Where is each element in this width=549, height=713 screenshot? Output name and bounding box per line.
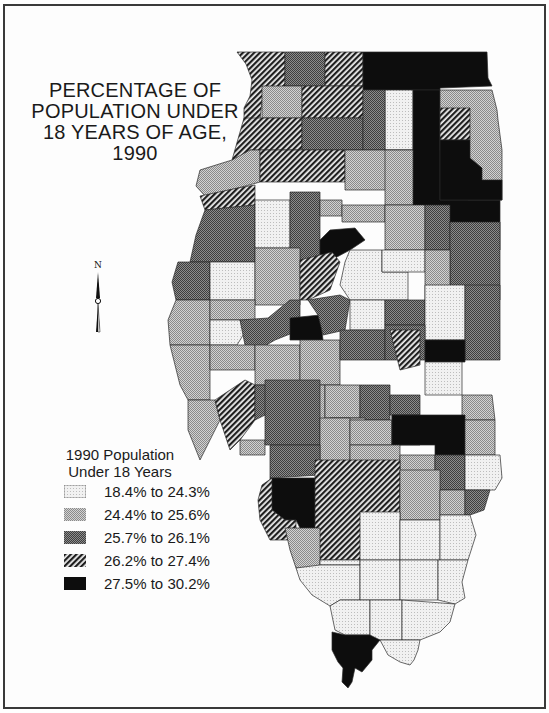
legend-title-line: Under 18 Years — [30, 463, 210, 480]
county-champaign-north — [385, 300, 425, 325]
map-title: PERCENTAGE OF POPULATION UNDER 18 YEARS … — [30, 80, 240, 164]
county-mercer-west — [190, 205, 255, 262]
county-pope-hardin — [402, 600, 455, 640]
county-shelby-fayette — [350, 420, 392, 445]
county-randolph — [285, 528, 320, 570]
county-coles — [360, 385, 390, 420]
county-jefferson-hamilton — [360, 512, 400, 560]
swatch-dark-dot — [64, 531, 86, 544]
county-moultrie — [325, 385, 360, 418]
county-jasper-crawford — [392, 415, 465, 455]
county-gallatin-south — [438, 560, 468, 604]
county-crawford — [465, 420, 495, 455]
county-warren — [210, 262, 255, 300]
county-menard-sangamon — [255, 345, 300, 385]
legend-item-4: 26.2% to 27.4% — [33, 549, 270, 572]
county-lee — [302, 118, 363, 150]
county-piatt — [340, 330, 385, 360]
legend-item-2: 24.4% to 25.6% — [33, 503, 270, 526]
legend-label: 27.5% to 30.2% — [104, 575, 210, 592]
county-clark — [390, 395, 420, 415]
county-putnam — [342, 205, 385, 222]
county-williamson — [360, 560, 400, 600]
legend-title-line: 1990 Population — [30, 446, 210, 463]
county-boone-mchenry-lake — [363, 52, 492, 90]
county-alexander-pulaski — [332, 632, 380, 688]
county-mcdonough — [210, 300, 255, 320]
county-adams — [170, 345, 210, 400]
legend-item-5: 27.5% to 30.2% — [33, 572, 270, 595]
county-perry-franklin — [320, 560, 360, 565]
legend-title: 1990 Population Under 18 Years — [30, 446, 210, 480]
county-dekalb — [385, 90, 413, 150]
county-gallatin — [440, 515, 476, 560]
swatch-light-dot — [64, 485, 86, 498]
county-henderson — [172, 262, 210, 300]
county-kankakee — [425, 205, 450, 250]
north-arrow-icon: N — [88, 258, 108, 338]
county-lee-east — [363, 90, 385, 150]
county-edgar — [425, 362, 462, 395]
county-grundy — [385, 205, 425, 250]
north-label: N — [94, 260, 102, 270]
county-dupage — [440, 108, 470, 140]
county-stephenson — [285, 52, 325, 86]
county-schuyler — [210, 320, 245, 345]
legend-item-3: 25.7% to 26.1% — [33, 526, 270, 549]
county-wabash — [465, 455, 502, 490]
county-dewitt — [350, 300, 385, 330]
title-line: 18 YEARS OF AGE, — [30, 122, 240, 143]
county-edwards-east — [465, 490, 490, 515]
title-line: 1990 — [30, 143, 240, 164]
title-line: PERCENTAGE OF — [30, 80, 240, 101]
county-knox — [255, 200, 290, 248]
county-vermilion — [465, 285, 500, 360]
county-vermilion-north — [425, 285, 465, 340]
swatch-diagonal-hatch — [64, 554, 86, 567]
county-edgar-south — [462, 395, 495, 420]
county-henry-bureau — [260, 150, 345, 182]
county-mason — [290, 315, 323, 340]
legend-label: 24.4% to 25.6% — [104, 506, 210, 523]
county-douglas — [425, 340, 465, 362]
county-hamilton — [400, 520, 440, 560]
county-pike-area — [210, 345, 255, 370]
county-macon — [300, 340, 340, 385]
county-carroll — [262, 86, 302, 118]
county-massac — [380, 640, 420, 665]
legend-label: 25.7% to 26.1% — [104, 529, 210, 546]
swatch-medium-dot — [64, 508, 86, 521]
county-fulton — [255, 248, 300, 305]
county-white — [440, 490, 465, 515]
legend-item-1: 18.4% to 24.3% — [33, 480, 270, 503]
county-macoupin — [265, 380, 320, 445]
title-line: POPULATION UNDER — [30, 101, 240, 122]
county-wayne-edwards — [400, 470, 440, 520]
legend-label: 26.2% to 27.4% — [104, 552, 210, 569]
county-tazewell — [300, 252, 340, 300]
county-livingston — [382, 250, 425, 272]
county-johnson — [370, 600, 402, 640]
county-hancock — [168, 300, 210, 345]
county-scott-greene — [215, 380, 255, 450]
legend-label: 18.4% to 24.3% — [104, 483, 210, 500]
north-arrow: N — [88, 258, 108, 338]
county-union — [330, 600, 370, 635]
county-ogle — [302, 86, 363, 118]
county-winnebago — [325, 52, 363, 86]
swatch-solid-black — [64, 577, 86, 590]
county-madison — [270, 445, 320, 478]
county-marshall — [320, 200, 342, 216]
legend: 1990 Population Under 18 Years 18.4% to … — [30, 446, 270, 595]
county-saline — [400, 560, 438, 600]
county-kendall — [385, 150, 413, 205]
